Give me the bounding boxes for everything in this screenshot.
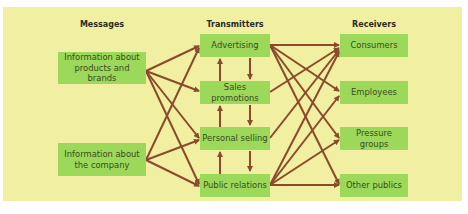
messages-heading: Messages <box>62 20 142 29</box>
transmitter-personal-selling: Personal selling <box>200 127 270 150</box>
receiver-employees: Employees <box>340 81 408 104</box>
receiver-consumers: Consumers <box>340 34 408 57</box>
message-the-company: Information about the company <box>58 143 146 176</box>
message-line-2: the company <box>74 160 129 171</box>
message-line-1: Information about <box>64 52 139 63</box>
message-line-1: Information about <box>64 149 139 160</box>
message-line-2: products and brands <box>60 63 144 84</box>
transmitter-public-relations: Public relations <box>200 174 270 197</box>
message-products-and-brands: Information about products and brands <box>58 52 146 84</box>
transmitter-advertising: Advertising <box>200 34 270 57</box>
receiver-other-publics: Other publics <box>340 174 408 197</box>
receivers-heading: Receivers <box>334 20 414 29</box>
transmitters-heading: Transmitters <box>195 20 275 29</box>
transmitter-sales-promotions: Sales promotions <box>200 81 270 104</box>
receiver-pressure-groups: Pressure groups <box>340 127 408 150</box>
